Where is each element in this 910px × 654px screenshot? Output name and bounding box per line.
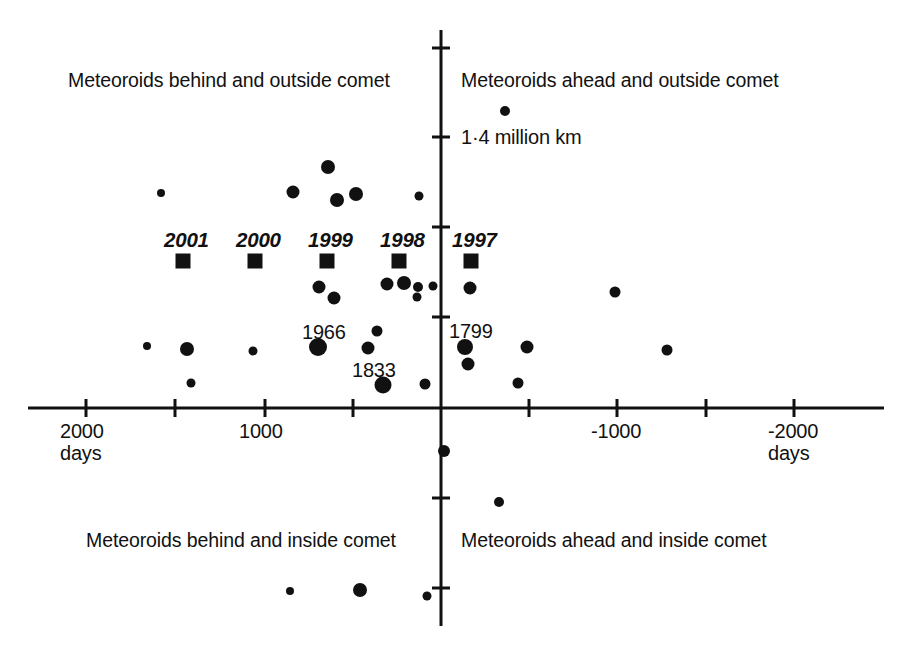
y-scale-annotation: 1·4 million km — [461, 126, 582, 148]
data-point-circle — [249, 347, 258, 356]
quadrant-label-behind-outside: Meteoroids behind and outside comet — [68, 70, 390, 92]
perihelion-year-label-2000: 2000 — [236, 229, 281, 252]
data-point-circle — [381, 278, 394, 291]
data-point-circle — [143, 342, 151, 350]
data-point-circle — [397, 276, 411, 290]
quadrant-label-ahead-inside: Meteoroids ahead and inside comet — [461, 530, 767, 552]
perihelion-year-label-2001: 2001 — [164, 229, 209, 252]
storm-year-label-1833: 1833 — [352, 359, 396, 381]
data-point-circle — [513, 378, 524, 389]
data-point-circle — [321, 160, 335, 174]
data-point-circle — [500, 106, 510, 116]
data-point-square — [176, 254, 191, 269]
perihelion-year-label-1998: 1998 — [380, 229, 425, 252]
data-point-circle — [157, 189, 165, 197]
data-point-square — [248, 254, 263, 269]
data-point-circle — [415, 192, 424, 201]
data-point-circle — [464, 282, 477, 295]
data-point-circle — [180, 342, 194, 356]
data-point-circle — [313, 281, 326, 294]
data-point-circle — [286, 587, 294, 595]
data-point-circle — [330, 193, 344, 207]
data-point-circle — [438, 445, 450, 457]
data-point-circle — [349, 187, 363, 201]
data-point-square — [320, 254, 335, 269]
x-axis-tick-label: 2000days — [60, 420, 104, 465]
quadrant-label-ahead-outside: Meteoroids ahead and outside comet — [461, 70, 778, 92]
perihelion-year-label-1997: 1997 — [452, 229, 497, 252]
data-point-square — [464, 254, 479, 269]
data-point-circle — [287, 186, 300, 199]
x-axis-tick-value: 2000 — [60, 420, 104, 442]
data-point-circle — [353, 583, 367, 597]
data-point-circle — [413, 282, 423, 292]
x-axis-tick-value: 1000 — [239, 420, 283, 442]
data-point-circle — [429, 282, 438, 291]
data-point-circle — [423, 592, 432, 601]
x-axis-unit-label: days — [60, 442, 104, 464]
data-point-circle — [372, 326, 383, 337]
data-point-square — [392, 254, 407, 269]
data-point-circle — [187, 379, 196, 388]
x-axis-tick-label: -1000 — [591, 420, 641, 442]
data-point-circle — [420, 379, 431, 390]
x-axis-tick-label: -2000days — [768, 420, 818, 465]
x-axis-tick-value: -2000 — [768, 420, 818, 442]
quadrant-label-behind-inside: Meteoroids behind and inside comet — [86, 530, 396, 552]
storm-year-label-1966: 1966 — [302, 321, 346, 343]
data-point-circle — [494, 497, 504, 507]
data-point-circle — [328, 292, 341, 305]
data-point-circle — [521, 341, 534, 354]
data-point-circle — [610, 287, 621, 298]
perihelion-year-label-1999: 1999 — [308, 229, 353, 252]
scatter-plot-figure: Meteoroids behind and outside cometMeteo… — [0, 0, 910, 654]
x-axis-tick-value: -1000 — [591, 420, 641, 442]
x-axis-tick-label: 1000 — [239, 420, 283, 442]
data-point-circle — [413, 293, 422, 302]
data-point-circle — [662, 345, 673, 356]
data-point-circle — [462, 358, 475, 371]
x-axis-unit-label: days — [768, 442, 818, 464]
storm-year-label-1799: 1799 — [449, 320, 493, 342]
data-point-circle — [362, 342, 375, 355]
